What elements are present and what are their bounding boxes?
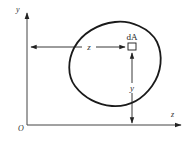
area-moment-diagram: z dA y y z O [0, 0, 187, 143]
dA-label: dA [127, 32, 139, 42]
origin-label: O [18, 124, 24, 133]
y-distance-label: y [129, 83, 134, 93]
y-axis-label: y [15, 5, 20, 14]
z-distance-label: z [86, 42, 91, 52]
z-axis-label: z [170, 110, 175, 119]
cross-section-outline [69, 22, 160, 106]
dA-element-square [128, 43, 136, 50]
